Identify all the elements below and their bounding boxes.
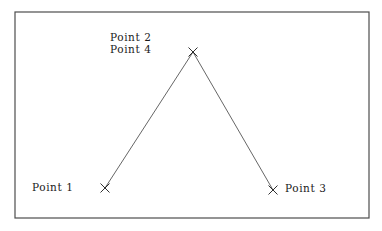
point-diagram-svg <box>0 0 382 231</box>
label-point-3: Point 3 <box>285 182 327 194</box>
label-point-1: Point 1 <box>32 181 74 193</box>
label-point-2: Point 2 <box>110 31 152 43</box>
diagram-canvas: Point 2 Point 4 Point 1 Point 3 <box>0 0 382 231</box>
label-point-4: Point 4 <box>110 43 152 55</box>
apex-label-stack: Point 2 Point 4 <box>110 31 152 55</box>
